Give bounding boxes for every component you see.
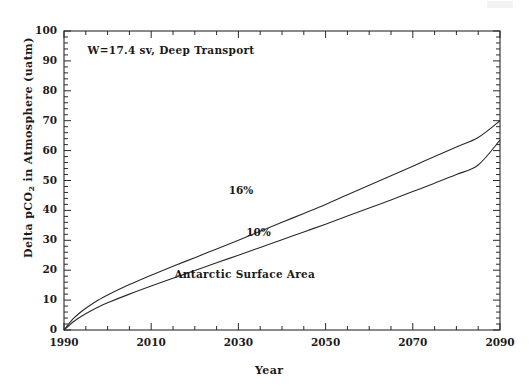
annotation-surface-area-note: Antarctic Surface Area — [174, 268, 315, 280]
x-tick-label-2050: 2050 — [310, 336, 342, 348]
x-tick-label-2090: 2090 — [484, 336, 516, 348]
y-tick-label-0: 0 — [0, 323, 57, 335]
y-axis-label-pre: Delta pCO — [22, 192, 35, 258]
curve-16-percent — [64, 121, 500, 330]
y-axis-label-post: in Atmosphere (uatm) — [22, 37, 35, 185]
y-tick-label-100: 100 — [0, 24, 57, 36]
annotation-transport-note: W=17.4 sv, Deep Transport — [88, 44, 255, 56]
x-tick-label-2010: 2010 — [135, 336, 167, 348]
y-tick-label-20: 20 — [0, 263, 57, 275]
curve-10-percent — [64, 140, 500, 330]
series-label-10-percent: 10% — [246, 226, 271, 238]
x-tick-label-2030: 2030 — [222, 336, 254, 348]
chart-figure: 0102030405060708090100 19902010203020502… — [0, 0, 529, 387]
x-tick-label-1990: 1990 — [48, 336, 80, 348]
y-axis-label: Delta pCO2 in Atmosphere (uatm) — [22, 37, 36, 258]
x-tick-label-2070: 2070 — [397, 336, 429, 348]
y-axis-label-subscript: 2 — [26, 186, 36, 192]
x-axis-label: Year — [255, 364, 283, 377]
plot-canvas — [0, 0, 529, 387]
series-label-16-percent: 16% — [229, 184, 254, 196]
y-tick-label-10: 10 — [0, 293, 57, 305]
data-curves — [64, 121, 500, 330]
